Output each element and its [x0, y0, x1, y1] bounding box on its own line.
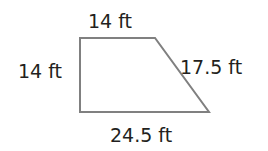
- trapezoid-dimension-diagram: 14 ft 14 ft 17.5 ft 24.5 ft: [0, 0, 268, 151]
- right-side-label: 17.5 ft: [180, 58, 242, 77]
- top-side-label: 14 ft: [88, 12, 132, 31]
- left-side-label: 14 ft: [18, 62, 62, 81]
- bottom-side-label: 24.5 ft: [110, 126, 172, 145]
